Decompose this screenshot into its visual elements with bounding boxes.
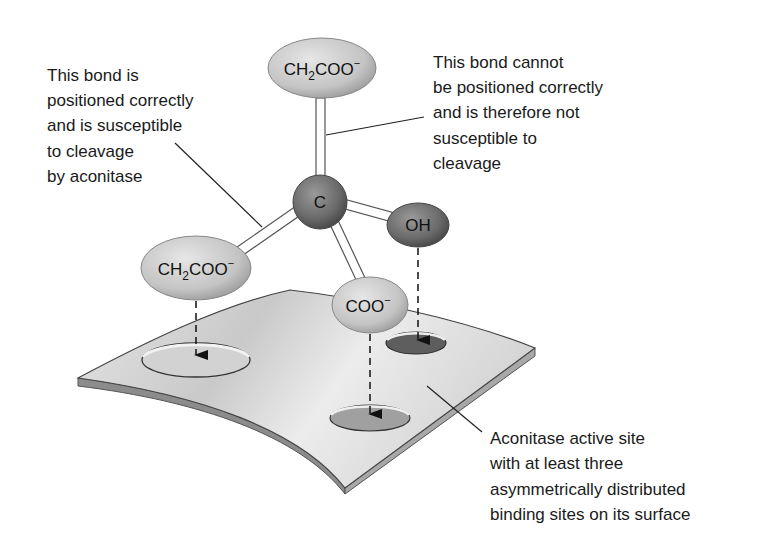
svg-text:OH: OH: [405, 216, 431, 235]
svg-text:and is susceptible: and is susceptible: [47, 116, 182, 135]
svg-text:by aconitase: by aconitase: [47, 167, 142, 186]
binding-site-left: [142, 343, 250, 377]
aconitase-diagram: CH2COO− C OH CH2COO− COO− This bond is p…: [0, 0, 775, 553]
group-hydroxyl: OH: [387, 203, 449, 247]
group-top-ch2coo: CH2COO−: [268, 38, 376, 98]
svg-text:be positioned correctly: be positioned correctly: [433, 78, 604, 97]
svg-text:Aconitase active site: Aconitase active site: [490, 429, 645, 448]
binding-site-hydroxyl: [386, 332, 446, 354]
bond-carboxylate: [328, 216, 366, 284]
svg-text:asymmetrically distributed: asymmetrically distributed: [490, 480, 686, 499]
svg-text:and is therefore not: and is therefore not: [433, 103, 580, 122]
annotation-left-bond: This bond is positioned correctly and is…: [47, 66, 194, 186]
svg-text:binding sites on its surface: binding sites on its surface: [490, 505, 690, 524]
active-site-surface: [78, 290, 535, 494]
svg-text:COO−: COO−: [345, 294, 390, 316]
svg-text:This bond cannot: This bond cannot: [433, 53, 564, 72]
svg-text:positioned correctly: positioned correctly: [47, 91, 194, 110]
group-carboxylate: COO−: [332, 277, 408, 333]
svg-text:to cleavage: to cleavage: [47, 142, 134, 161]
svg-text:C: C: [314, 193, 326, 212]
leader-left-bond: [175, 143, 262, 227]
annotation-top-bond: This bond cannot be positioned correctly…: [433, 53, 604, 173]
central-carbon: C: [293, 175, 347, 229]
svg-text:cleavage: cleavage: [433, 154, 501, 173]
svg-text:This bond is: This bond is: [47, 66, 139, 85]
svg-text:susceptible to: susceptible to: [433, 129, 537, 148]
group-left-ch2coo: CH2COO−: [141, 236, 251, 300]
bond-top: [316, 98, 325, 178]
annotation-active-site: Aconitase active site with at least thre…: [489, 429, 690, 524]
svg-text:with at least three: with at least three: [489, 454, 623, 473]
leader-top-bond: [326, 117, 424, 135]
